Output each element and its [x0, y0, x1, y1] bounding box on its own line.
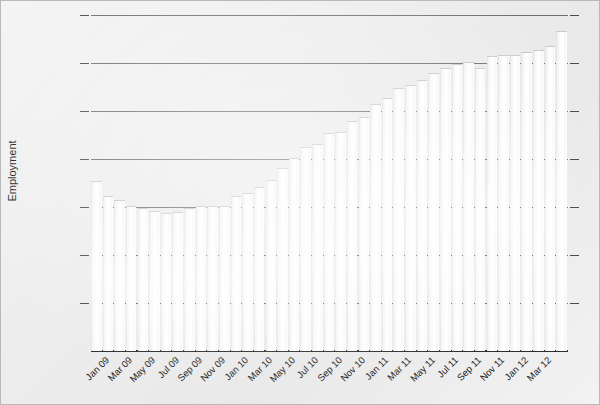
bar: [405, 85, 416, 351]
bar: [335, 132, 346, 351]
x-axis-tick-label: Jan 12: [500, 353, 528, 381]
y-axis-tick: [80, 207, 89, 208]
x-axis-tick-label: Mar 11: [384, 353, 412, 381]
x-axis-tick-label-text: Jan 12: [502, 354, 530, 382]
bar: [103, 196, 114, 351]
bar: [300, 147, 311, 351]
bar: [196, 206, 207, 351]
bar: [254, 187, 265, 351]
bar: [149, 211, 160, 351]
x-axis-tick-label-text: Mar 11: [385, 354, 413, 382]
x-axis-tick-label-text: Mar 12: [524, 354, 553, 383]
x-axis-tick-labels: Jan 09Mar 09May 09Jul 09Sep 09Nov 09Jan …: [91, 353, 568, 405]
bar: [556, 31, 567, 351]
x-axis-tick-label-text: Sep 11: [455, 354, 484, 383]
bar: [91, 181, 102, 351]
bar: [289, 158, 300, 351]
bar: [545, 46, 556, 351]
bar: [114, 200, 125, 351]
x-axis-tick-label-text: Sep 09: [175, 354, 204, 383]
x-axis-tick-label: May 09: [126, 353, 156, 383]
bar: [393, 88, 404, 351]
bar: [126, 206, 137, 351]
bar: [452, 64, 463, 351]
x-axis-tick-label: Jan 10: [221, 353, 249, 381]
bar: [231, 196, 242, 351]
x-axis-tick-label-text: Nov 10: [338, 354, 367, 383]
x-axis-tick-label-text: Jan 11: [363, 354, 390, 381]
y-axis-tick: [80, 111, 89, 112]
x-axis-tick-label: Nov 10: [336, 353, 365, 382]
bar: [463, 62, 474, 351]
bar: [428, 73, 439, 351]
bar: [487, 56, 498, 351]
bar: [417, 80, 428, 351]
x-axis-tick-label: Sep 10: [313, 353, 342, 382]
bar: [172, 212, 183, 351]
bar: [161, 213, 172, 351]
bar: [138, 208, 149, 351]
bar: [521, 52, 532, 351]
x-axis-tick-label: Jan 09: [82, 353, 110, 381]
y-axis-tick: [80, 159, 89, 160]
x-axis-tick-label-text: Nov 09: [198, 354, 227, 383]
bar: [242, 193, 253, 351]
y-axis-tick-right: [570, 111, 579, 112]
y-axis-tick-right: [570, 15, 579, 16]
bar: [533, 50, 544, 351]
bar: [266, 180, 277, 351]
plot-area: 17 60017 40017 20017 00016 80016 60016 4…: [91, 15, 568, 351]
x-axis-tick-label-text: May 11: [407, 354, 436, 383]
bar: [277, 168, 288, 351]
x-axis-tick-label-text: Sep 10: [315, 354, 344, 383]
y-axis-title: Employment: [6, 140, 18, 201]
x-axis-tick-label: Sep 09: [174, 353, 203, 382]
bar: [475, 68, 486, 351]
x-axis-tick-label-text: Nov 11: [478, 354, 507, 383]
bar: [382, 98, 393, 351]
bar: [498, 55, 509, 351]
x-axis-tick-label: Jan 11: [361, 353, 388, 380]
y-axis-tick-right: [570, 207, 579, 208]
y-axis-tick: [80, 63, 89, 64]
x-axis-tick-label: Nov 09: [197, 353, 226, 382]
x-axis-tick-label-text: Jan 09: [83, 354, 111, 382]
bar: [359, 117, 370, 351]
x-axis-tick-label: Mar 12: [523, 353, 552, 382]
bar: [347, 121, 358, 351]
x-axis-tick-label-text: Jan 10: [223, 354, 251, 382]
x-axis-tick-label: May 11: [406, 353, 435, 382]
bar: [510, 55, 521, 351]
chart-figure: Employment 17 60017 40017 20017 00016 80…: [0, 0, 600, 405]
bar: [324, 133, 335, 351]
y-axis-tick: [80, 255, 89, 256]
y-axis-tick-right: [570, 159, 579, 160]
x-axis-tick-label-text: May 09: [128, 354, 158, 384]
bar: [312, 144, 323, 351]
x-axis-tick-label: Sep 11: [453, 353, 482, 382]
y-axis-tick: [80, 15, 89, 16]
bar: [184, 208, 195, 351]
y-axis-tick-right: [570, 63, 579, 64]
bar: [207, 206, 218, 351]
bar: [370, 104, 381, 351]
bar: [219, 206, 230, 351]
x-axis-tick-label: Nov 11: [477, 353, 506, 382]
y-axis-tick-right: [570, 303, 579, 304]
bar: [440, 68, 451, 351]
y-axis-tick-right: [570, 255, 579, 256]
bars-group: [91, 15, 568, 351]
y-axis-tick: [80, 303, 89, 304]
